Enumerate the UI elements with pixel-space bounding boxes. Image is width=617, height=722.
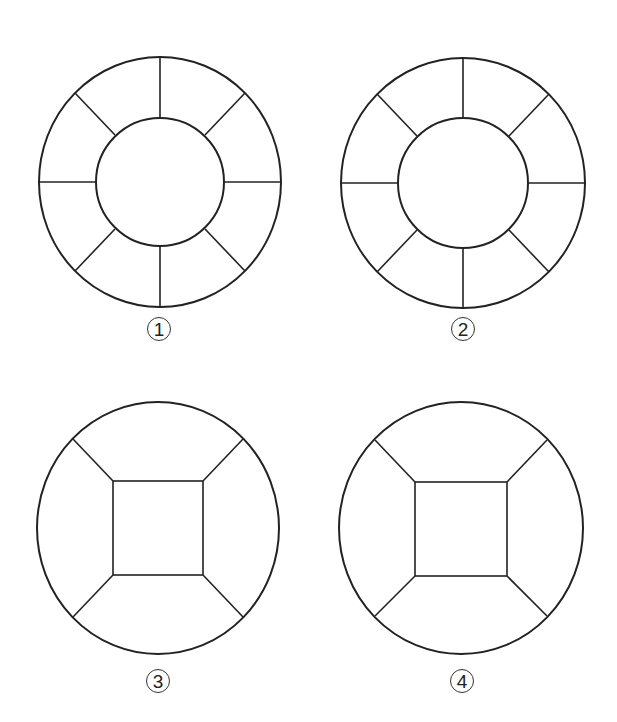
figure-2-inner-circle bbox=[398, 118, 528, 248]
figure-3-connectors bbox=[73, 439, 243, 617]
figure-4-circle-square bbox=[339, 402, 583, 654]
figure-4-label-text: 4 bbox=[457, 672, 468, 691]
figure-3-label: 3 bbox=[146, 669, 170, 693]
figure-1-label: 1 bbox=[147, 317, 171, 341]
figure-1-spokes bbox=[39, 57, 281, 307]
figure-1-label-text: 1 bbox=[154, 320, 165, 339]
figure-1-inner-circle bbox=[96, 118, 224, 246]
figure-3-label-text: 3 bbox=[153, 672, 164, 691]
figure-4-inner-square bbox=[415, 482, 507, 576]
figure-2-label: 2 bbox=[451, 317, 475, 341]
figure-1-ring bbox=[39, 57, 281, 307]
figure-2-ring bbox=[341, 58, 585, 308]
figure-2-spokes bbox=[341, 58, 585, 308]
figure-2-label-text: 2 bbox=[458, 320, 469, 339]
figure-4-connectors bbox=[375, 440, 547, 616]
figure-3-circle-square bbox=[37, 402, 279, 654]
figure-4-label: 4 bbox=[450, 669, 474, 693]
figure-3-inner-square bbox=[113, 481, 203, 575]
figures-canvas bbox=[0, 0, 617, 722]
